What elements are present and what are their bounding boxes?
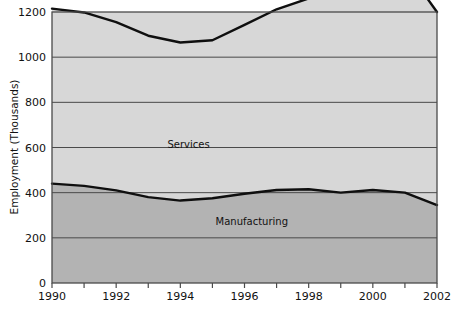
y-tick-label-1200: 1200 — [18, 6, 46, 19]
area-fills — [52, 0, 437, 283]
chart-container: 1990199219941996199820002002 02004006008… — [0, 0, 454, 310]
x-tick-label-1990: 1990 — [38, 290, 66, 303]
y-tick-label-200: 200 — [25, 232, 46, 245]
x-tick-label-2000: 2000 — [359, 290, 387, 303]
x-axis-ticks — [52, 283, 437, 288]
x-tick-label-1998: 1998 — [295, 290, 323, 303]
series-label-manufacturing: Manufacturing — [216, 216, 288, 227]
x-axis-tick-labels: 1990199219941996199820002002 — [38, 290, 451, 303]
y-axis-title: Employment (Thousands) — [8, 80, 20, 215]
x-tick-label-1994: 1994 — [166, 290, 194, 303]
y-tick-label-800: 800 — [25, 96, 46, 109]
y-axis-tick-labels: 020040060080010001200 — [18, 6, 46, 290]
y-tick-label-400: 400 — [25, 187, 46, 200]
y-tick-label-0: 0 — [39, 277, 46, 290]
y-tick-label-600: 600 — [25, 142, 46, 155]
area-fill-manufacturing — [52, 184, 437, 283]
x-tick-label-2002: 2002 — [423, 290, 451, 303]
y-tick-label-1000: 1000 — [18, 51, 46, 64]
x-tick-label-1992: 1992 — [102, 290, 130, 303]
x-tick-label-1996: 1996 — [231, 290, 259, 303]
series-label-services: Services — [168, 139, 210, 150]
employment-area-chart: 1990199219941996199820002002 02004006008… — [0, 0, 454, 310]
